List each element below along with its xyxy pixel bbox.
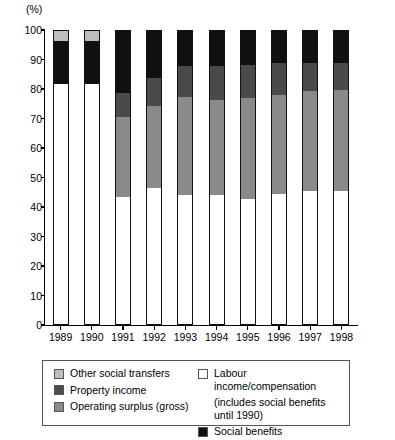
x-axis-tick-label: 1997	[299, 332, 322, 343]
bar-segment-labour-income-compensation	[303, 191, 317, 324]
legend-label-social-benefits: Social benefits	[214, 425, 282, 438]
bar-1989	[53, 30, 69, 325]
bar-segment-social-benefits	[210, 31, 224, 66]
legend-item-labour-income: Labour income/compensation	[198, 367, 346, 392]
bar-segment-property-income	[334, 63, 348, 89]
bar-segment-labour-income-compensation	[178, 195, 192, 324]
chart-figure: (%) 010203040506070809010019891990199119…	[0, 0, 395, 440]
bar-segment-operating-surplus-gross	[116, 117, 130, 196]
x-axis-tick-label: 1990	[80, 332, 103, 343]
x-axis-tick-label: 1995	[236, 332, 259, 343]
x-axis-tick-mark	[247, 325, 248, 330]
y-axis-tick-mark	[41, 295, 46, 296]
x-axis-tick-mark	[154, 325, 155, 330]
y-axis-tick-mark	[41, 206, 46, 207]
x-axis-tick-mark	[310, 325, 311, 330]
bar-segment-operating-surplus-gross	[334, 90, 348, 191]
legend-item-property-income: Property income	[54, 384, 194, 397]
x-axis-tick-mark	[185, 325, 186, 330]
bar-segment-labour-income-compensation	[272, 194, 286, 324]
legend-swatch-operating-surplus	[54, 402, 64, 412]
bar-segment-operating-surplus-gross	[241, 98, 255, 199]
y-axis-tick-label: 100	[14, 25, 42, 36]
y-axis-tick-label: 90	[14, 54, 42, 65]
x-axis-tick-label: 1992	[143, 332, 166, 343]
y-axis-tick-label: 20	[14, 261, 42, 272]
bar-1997	[302, 30, 318, 325]
y-axis-tick-mark	[41, 265, 46, 266]
bar-segment-operating-surplus-gross	[303, 91, 317, 191]
bar-segment-other-social-transfers	[85, 31, 99, 41]
bar-segment-social-benefits	[116, 31, 130, 93]
bar-segment-operating-surplus-gross	[210, 100, 224, 195]
bar-segment-labour-income-compensation	[116, 197, 130, 324]
y-axis-tick-mark	[41, 147, 46, 148]
x-axis-tick-mark	[341, 325, 342, 330]
x-axis-tick-label: 1994	[205, 332, 228, 343]
bar-1998	[333, 30, 349, 325]
y-axis-tick-label: 0	[14, 320, 42, 331]
bar-segment-social-benefits	[85, 41, 99, 83]
bar-segment-property-income	[303, 63, 317, 91]
legend-swatch-social-benefits	[198, 427, 208, 437]
bar-segment-social-benefits	[241, 31, 255, 65]
y-axis-tick-label: 40	[14, 202, 42, 213]
bar-1996	[271, 30, 287, 325]
legend-item-other-social-transfers: Other social transfers	[54, 367, 194, 380]
legend-label-property-income: Property income	[70, 384, 146, 397]
x-axis-tick-mark	[122, 325, 123, 330]
x-axis-tick-mark	[91, 325, 92, 330]
legend-swatch-property-income	[54, 385, 64, 395]
y-axis-tick-mark	[41, 236, 46, 237]
legend-label-other-social-transfers: Other social transfers	[70, 367, 170, 380]
legend-note-line-1: (includes social benefits	[214, 396, 346, 409]
legend-label-labour-income: Labour income/compensation	[214, 367, 346, 392]
legend-note-line-2: until 1990)	[214, 409, 346, 422]
bar-segment-social-benefits	[178, 31, 192, 66]
bar-1990	[84, 30, 100, 325]
x-axis-tick-label: 1993	[174, 332, 197, 343]
x-axis-tick-mark	[278, 325, 279, 330]
bar-segment-social-benefits	[303, 31, 317, 63]
bar-segment-property-income	[272, 63, 286, 95]
bar-segment-social-benefits	[272, 31, 286, 63]
y-axis-tick-mark	[41, 177, 46, 178]
y-axis-tick-label: 80	[14, 84, 42, 95]
bar-segment-labour-income-compensation	[241, 199, 255, 324]
y-axis-tick-label: 10	[14, 290, 42, 301]
legend-swatch-other-social-transfers	[54, 369, 64, 379]
bar-segment-operating-surplus-gross	[178, 97, 192, 195]
bar-1991	[115, 30, 131, 325]
legend-item-operating-surplus: Operating surplus (gross)	[54, 400, 194, 413]
bar-segment-labour-income-compensation	[210, 195, 224, 324]
bar-segment-social-benefits	[54, 41, 68, 83]
y-axis-tick-mark	[41, 88, 46, 89]
y-axis-tick-label: 60	[14, 143, 42, 154]
y-axis-tick-mark	[41, 118, 46, 119]
bar-segment-property-income	[116, 93, 130, 118]
bar-segment-labour-income-compensation	[54, 84, 68, 324]
x-axis-tick-mark	[216, 325, 217, 330]
legend-item-social-benefits: Social benefits	[198, 425, 346, 438]
y-axis-tick-label: 70	[14, 113, 42, 124]
bar-segment-property-income	[147, 78, 161, 106]
bar-1992	[146, 30, 162, 325]
bar-segment-operating-surplus-gross	[272, 95, 286, 193]
bar-segment-social-benefits	[147, 31, 161, 78]
bar-segment-labour-income-compensation	[85, 84, 99, 324]
x-axis-tick-label: 1991	[111, 332, 134, 343]
bar-1995	[240, 30, 256, 325]
bar-1994	[209, 30, 225, 325]
chart-legend: Other social transfers Property income O…	[42, 360, 350, 426]
x-axis-tick-label: 1989	[49, 332, 72, 343]
y-axis-tick-label: 30	[14, 231, 42, 242]
y-axis-unit-label: (%)	[26, 3, 42, 15]
legend-swatch-labour-income	[198, 369, 208, 379]
x-axis-tick-mark	[60, 325, 61, 330]
legend-column-left: Other social transfers Property income O…	[54, 367, 194, 417]
legend-label-operating-surplus: Operating surplus (gross)	[70, 400, 188, 413]
y-axis-tick-mark	[41, 59, 46, 60]
y-axis-tick-label: 50	[14, 172, 42, 183]
bar-1993	[177, 30, 193, 325]
y-axis-tick-mark	[41, 29, 46, 30]
